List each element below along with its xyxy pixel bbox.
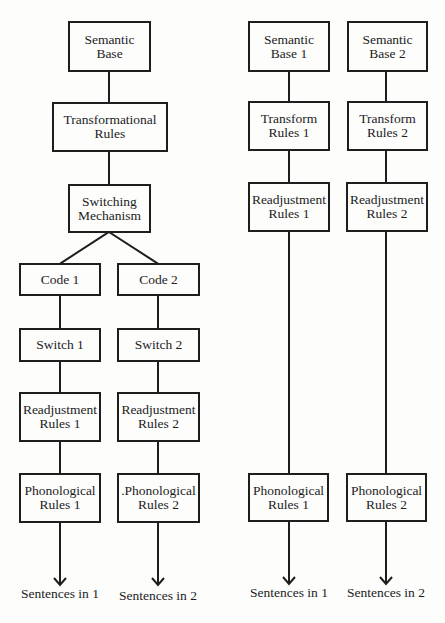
left-transformational-rules-box: Transformational Rules xyxy=(52,102,168,152)
box-label-line1: .Phonological xyxy=(121,484,196,498)
left-switch2-box: Switch 2 xyxy=(117,328,200,362)
box-label-line2: Rules 2 xyxy=(366,498,407,512)
box-label-line2: Rules 1 xyxy=(269,126,310,140)
box-label: Code 2 xyxy=(139,273,178,287)
connector-switching-to-code2 xyxy=(109,232,157,263)
box-label-line2: Rules 2 xyxy=(367,207,408,221)
box-label-line2: Base 1 xyxy=(271,47,307,61)
box-label-line1: Readjustment xyxy=(121,403,195,417)
box-label-line2: Rules 1 xyxy=(268,498,309,512)
left-output1-label: Sentences in 1 xyxy=(10,586,110,601)
bilingual-grammar-diagram: Semantic Base Transformational Rules Swi… xyxy=(0,0,445,623)
box-label-line1: Phonological xyxy=(253,484,324,498)
box-label: Switch 1 xyxy=(36,338,84,352)
left-switching-mechanism-box: Switching Mechanism xyxy=(68,184,151,233)
left-readjustment-rules2-box: Readjustment Rules 2 xyxy=(117,392,200,442)
left-output2-label: Sentences in 2 xyxy=(108,588,208,603)
left-switch1-box: Switch 1 xyxy=(19,328,101,362)
connector-switching-to-code1 xyxy=(61,232,109,263)
box-label-line1: Readjustment xyxy=(350,193,424,207)
box-label: Switch 2 xyxy=(135,338,183,352)
box-label-line1: Phonological xyxy=(351,484,422,498)
box-label-line2: Rules 1 xyxy=(40,498,81,512)
box-label-line1: Semantic xyxy=(84,33,134,47)
box-label-line2: Rules 1 xyxy=(269,207,310,221)
box-label-line1: Transform xyxy=(359,112,416,126)
left-phonological-rules2-box: .Phonological Rules 2 xyxy=(117,473,200,523)
right-readjustment-rules2-box: Readjustment Rules 2 xyxy=(346,182,428,232)
right-transform-rules1-box: Transform Rules 1 xyxy=(248,101,330,151)
box-label-line2: Rules 2 xyxy=(138,498,179,512)
box-label-line2: Rules xyxy=(95,127,126,141)
left-readjustment-rules1-box: Readjustment Rules 1 xyxy=(19,392,101,442)
right-readjustment-rules1-box: Readjustment Rules 1 xyxy=(248,182,330,232)
box-label-line1: Readjustment xyxy=(252,193,326,207)
left-code2-box: Code 2 xyxy=(117,263,200,296)
left-semantic-base-box: Semantic Base xyxy=(68,21,151,72)
box-label-line2: Base 2 xyxy=(369,47,405,61)
right-transform-rules2-box: Transform Rules 2 xyxy=(347,101,428,151)
box-label-line1: Transformational xyxy=(63,113,156,127)
box-label-line1: Semantic xyxy=(362,33,412,47)
box-label-line1: Phonological xyxy=(24,484,95,498)
connector-lines xyxy=(0,0,445,623)
box-label-line2: Base xyxy=(96,47,122,61)
box-label-line1: Semantic xyxy=(264,33,314,47)
box-label-line2: Rules 2 xyxy=(367,126,408,140)
left-phonological-rules1-box: Phonological Rules 1 xyxy=(19,473,101,523)
box-label-line2: Mechanism xyxy=(78,209,141,223)
right-phonological-rules2-box: Phonological Rules 2 xyxy=(346,473,427,522)
box-label: Code 1 xyxy=(41,273,80,287)
box-label-line2: Rules 1 xyxy=(40,417,81,431)
box-label-line2: Rules 2 xyxy=(138,417,179,431)
box-label-line1: Transform xyxy=(261,112,318,126)
right-phonological-rules1-box: Phonological Rules 1 xyxy=(248,473,329,522)
box-label-line1: Readjustment xyxy=(23,403,97,417)
box-label-line1: Switching xyxy=(82,195,137,209)
right-semantic-base2-box: Semantic Base 2 xyxy=(347,21,428,72)
left-code1-box: Code 1 xyxy=(19,263,101,296)
right-output1-label: Sentences in 1 xyxy=(239,585,339,600)
right-semantic-base1-box: Semantic Base 1 xyxy=(248,21,330,72)
right-output2-label: Sentences in 2 xyxy=(336,585,436,600)
